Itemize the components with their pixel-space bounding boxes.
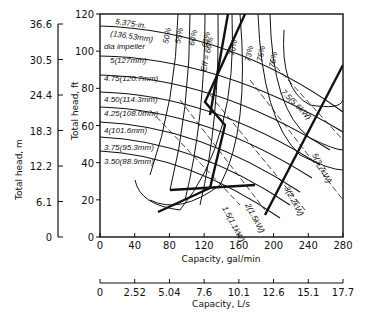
- x2-tick-label: 7.6: [196, 287, 212, 298]
- y-tick-label: 0: [88, 232, 94, 243]
- svg-text:55%: 55%: [173, 27, 185, 45]
- x2-axis-lps: 02.525.047.610.112.615.117.7 Capacity, L…: [97, 279, 354, 309]
- y-tick-label: 100: [75, 46, 94, 57]
- svg-text:4(101.6mm): 4(101.6mm): [104, 126, 147, 135]
- svg-text:1.5(1.1kW): 1.5(1.1kW): [220, 205, 246, 244]
- svg-text:50%: 50%: [161, 27, 173, 45]
- impeller-labels: 5.375-in. (136.53mm) dia impeller 5(127m…: [104, 17, 159, 166]
- svg-text:73%: 73%: [243, 45, 255, 63]
- x2-tick-label: 10.1: [228, 287, 250, 298]
- x-axis-label: Capacity, gal/min: [182, 254, 261, 264]
- svg-text:5(127mm): 5(127mm): [110, 56, 147, 65]
- y2-tick-label: 24.4: [30, 90, 52, 101]
- x2-tick-label: 15.1: [297, 287, 319, 298]
- x2-tick-label: 5.04: [158, 287, 180, 298]
- svg-text:3.50(88.9mm): 3.50(88.9mm): [104, 157, 154, 166]
- svg-text:5(3.7kW): 5(3.7kW): [310, 152, 333, 185]
- svg-text:75%: 75%: [255, 45, 267, 63]
- svg-text:dia impeller: dia impeller: [104, 42, 145, 51]
- pump-performance-chart: 06.112.218.324.430.536.6 Total head, m T…: [0, 0, 367, 316]
- svg-text:3.75(95.3mm): 3.75(95.3mm): [104, 143, 154, 152]
- y-tick-label: 20: [81, 195, 94, 206]
- x-tick-label: 240: [299, 240, 318, 251]
- svg-text:76%: 76%: [267, 51, 279, 69]
- x2-tick-label: 2.52: [124, 287, 146, 298]
- svg-text:4.25(108.0mm): 4.25(108.0mm): [104, 109, 159, 118]
- svg-text:2(1.5kW): 2(1.5kW): [243, 201, 267, 235]
- x-tick-label: 0: [97, 240, 103, 251]
- svg-text:60%: 60%: [187, 29, 199, 47]
- y2-tick-label: 12.2: [30, 161, 52, 172]
- x-tick-label: 80: [163, 240, 176, 251]
- x2-tick-label: 12.6: [262, 287, 284, 298]
- x2-tick-label: 0: [97, 287, 103, 298]
- y2-tick-label: 30.5: [30, 55, 52, 66]
- efficiency-labels: 50% 55% 60% 63% Eff = 66% 70% 73% 75% 76…: [161, 27, 279, 73]
- y-tick-label: 80: [81, 83, 94, 94]
- y-tick-label: 40: [81, 158, 94, 169]
- x-tick-label: 120: [195, 240, 214, 251]
- svg-text:4.50(114.3mm): 4.50(114.3mm): [104, 95, 158, 104]
- x2-axis-label: Capacity, L/s: [192, 299, 250, 309]
- svg-text:7.5(5.6kW): 7.5(5.6kW): [279, 88, 313, 122]
- y-axis-label: Total head, ft: [70, 81, 80, 141]
- power-labels: 7.5(5.6kW) 5(3.7kW) 3(2.2kW) 2(1.5kW) 1.…: [220, 88, 333, 244]
- x-axis-gpm: 04080120160200240280: [97, 233, 353, 251]
- x-tick-label: 40: [128, 240, 141, 251]
- y2-tick-label: 6.1: [36, 197, 52, 208]
- y2-tick-label: 0: [46, 232, 52, 243]
- y-tick-label: 60: [81, 121, 94, 132]
- y2-tick-label: 18.3: [30, 126, 52, 137]
- operating-boundaries: [158, 14, 343, 215]
- svg-text:3(2.2kW): 3(2.2kW): [282, 185, 305, 218]
- y2-axis-meters: 06.112.218.324.430.536.6 Total head, m: [14, 19, 63, 243]
- y-tick-label: 120: [75, 9, 94, 20]
- x-tick-label: 280: [333, 240, 352, 251]
- svg-text:4.75(120.7mm): 4.75(120.7mm): [104, 74, 159, 83]
- y2-axis-label: Total head, m: [14, 139, 24, 201]
- x2-tick-label: 17.7: [332, 287, 354, 298]
- x-tick-label: 200: [264, 240, 283, 251]
- y2-tick-label: 36.6: [30, 19, 52, 30]
